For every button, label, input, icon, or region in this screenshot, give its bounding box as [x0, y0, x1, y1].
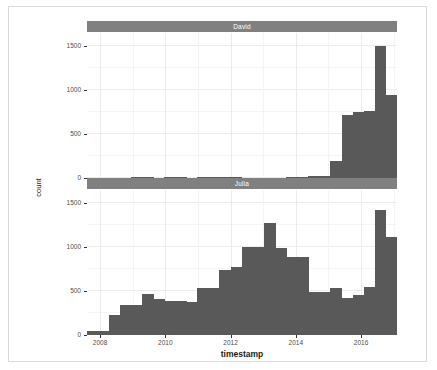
y-axis-title: count [31, 157, 45, 217]
y-tick-mark [84, 90, 87, 91]
histogram-bar [197, 288, 209, 335]
x-tick-mark [231, 335, 232, 338]
x-tick-label: 2012 [216, 339, 246, 347]
gridline-v-major [165, 33, 166, 178]
gridline-v-minor [263, 33, 264, 178]
gridline-v-major [231, 33, 232, 178]
y-tick-label: 0 [47, 331, 81, 339]
histogram-bar [330, 161, 342, 178]
plot-panel-julia [87, 190, 397, 335]
y-tick-mark [84, 291, 87, 292]
y-tick-label: 1500 [47, 42, 81, 50]
histogram-bar [208, 288, 220, 335]
histogram-bar [87, 331, 98, 335]
histogram-bar [242, 247, 254, 335]
y-tick-label: 1500 [47, 199, 81, 207]
y-tick-label: 0 [47, 174, 81, 182]
x-tick-mark [165, 335, 166, 338]
histogram-bar [330, 288, 342, 335]
y-tick-mark [84, 46, 87, 47]
histogram-bar [342, 298, 354, 335]
y-tick-mark [84, 178, 87, 179]
histogram-bar [253, 247, 265, 335]
histogram-bar [109, 315, 121, 335]
y-tick-label: 500 [47, 287, 81, 295]
facet-strip-label-david: David [87, 21, 397, 32]
facet-strip-label-julia: Julia [87, 178, 397, 189]
histogram-bar [297, 257, 309, 335]
histogram-bar [164, 301, 176, 335]
histogram-bar [175, 301, 187, 335]
histogram-bar [264, 223, 276, 335]
y-tick-mark [84, 134, 87, 135]
histogram-bar [342, 115, 354, 178]
histogram-bar [219, 270, 231, 335]
y-tick-mark [84, 335, 87, 336]
histogram-bar [386, 95, 397, 178]
x-tick-mark [100, 335, 101, 338]
gridline-v-minor [198, 33, 199, 178]
histogram-bar [120, 305, 132, 335]
y-tick-mark [84, 247, 87, 248]
y-tick-label: 1000 [47, 86, 81, 94]
gridline-v-minor [133, 33, 134, 178]
histogram-bar [286, 257, 298, 335]
histogram-bar [375, 46, 387, 178]
histogram-bar [364, 111, 376, 178]
x-axis-title: timestamp [87, 348, 397, 360]
histogram-bar [353, 112, 365, 178]
ggplot-figure: count David Julia 0500100015000500100015… [8, 6, 427, 362]
y-tick-mark [84, 203, 87, 204]
y-tick-label: 1000 [47, 243, 81, 251]
x-tick-label: 2014 [281, 339, 311, 347]
histogram-bar [131, 305, 143, 335]
x-tick-label: 2008 [85, 339, 115, 347]
y-tick-label: 500 [47, 130, 81, 138]
histogram-bar [319, 292, 331, 336]
histogram-bar [142, 294, 154, 335]
histogram-bar [153, 299, 165, 335]
gridline-v-major [296, 33, 297, 178]
histogram-bar [275, 248, 287, 335]
histogram-bar [308, 292, 320, 336]
gridline-v-minor [328, 33, 329, 178]
x-tick-label: 2016 [346, 339, 376, 347]
x-tick-mark [361, 335, 362, 338]
histogram-bar [353, 295, 365, 335]
gridline-v-major [100, 190, 101, 335]
gridline-v-major [100, 33, 101, 178]
histogram-bar [186, 302, 198, 335]
histogram-bar [386, 237, 397, 335]
histogram-bar [375, 210, 387, 335]
x-tick-mark [296, 335, 297, 338]
histogram-bar [364, 287, 376, 335]
histogram-bar [231, 267, 243, 335]
x-tick-label: 2010 [150, 339, 180, 347]
plot-panel-david [87, 33, 397, 178]
